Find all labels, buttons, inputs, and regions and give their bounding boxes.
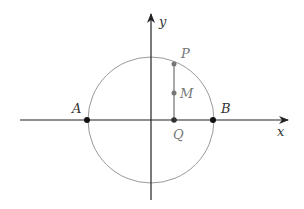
- point-m: [172, 91, 177, 96]
- label-p: P: [180, 46, 190, 61]
- point-a: [84, 117, 90, 123]
- point-p: [172, 62, 177, 67]
- label-b: B: [220, 101, 231, 116]
- point-b: [210, 117, 216, 123]
- label-q: Q: [173, 127, 184, 142]
- point-q: [171, 117, 177, 123]
- diagram-canvas: A B P M Q x y: [0, 0, 304, 209]
- label-a: A: [71, 101, 81, 116]
- label-x-axis: x: [277, 124, 285, 139]
- label-y-axis: y: [158, 14, 167, 29]
- label-m: M: [179, 86, 194, 101]
